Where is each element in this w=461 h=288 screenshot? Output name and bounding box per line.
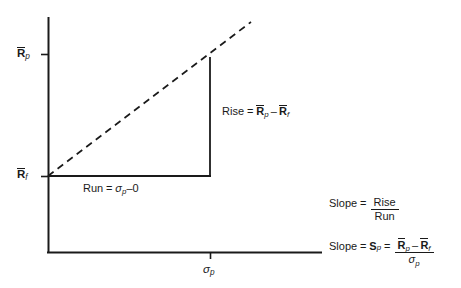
rise-annotation-prefix: Rise — [222, 106, 244, 117]
run-term1-base: σ — [115, 183, 122, 194]
x-axis-label-sigma-base: σ — [203, 264, 210, 276]
formula-slope-symbols: Slope = Sp = Rp – Rf σp — [329, 233, 435, 259]
y-axis-label-rf-base: R — [17, 169, 25, 181]
formula1-numerator: Rise — [371, 197, 399, 210]
run-annotation-prefix: Run — [83, 183, 103, 194]
rise-annotation: Rise = Rp – Rf — [222, 106, 289, 117]
run-term1-sub: p — [122, 188, 126, 196]
formula1-equals: = — [357, 198, 369, 209]
formula2-denominator: σp — [395, 252, 434, 266]
formula2-den-sub: p — [415, 260, 419, 268]
formula2-lhs: Slope — [329, 241, 357, 252]
formula-slope-words: Slope = Rise Run — [329, 190, 400, 216]
formula1-denominator: Run — [371, 209, 399, 223]
formula2-fraction: Rp – Rf σp — [395, 240, 434, 266]
run-term2: 0 — [133, 183, 139, 194]
y-axis-label-rp-sub: p — [25, 53, 30, 61]
formula2-num-term2-sub: f — [428, 245, 430, 253]
formula2-symbol-base: S — [369, 241, 376, 252]
formula2-equals-1: = — [357, 241, 369, 252]
formula2-num-term1-sub: p — [405, 245, 409, 253]
y-axis-label-rf-sub: f — [25, 174, 27, 182]
rise-term1-sub: p — [264, 111, 268, 119]
formula2-symbol-sub: p — [377, 244, 381, 252]
run-annotation: Run = σp – 0 — [83, 183, 139, 194]
formula1-fraction: Rise Run — [371, 197, 399, 223]
capital-allocation-line — [48, 22, 251, 176]
rise-term2-base: R — [279, 106, 287, 117]
x-axis-label-sigma-p: σp — [203, 264, 215, 276]
formula2-numerator: Rp – Rf — [395, 240, 434, 253]
rise-annotation-equals: = — [244, 106, 256, 117]
formula1-lhs: Slope — [329, 198, 357, 209]
y-axis-label-rf: Rf — [17, 169, 28, 181]
x-axis-label-sigma-sub: p — [210, 269, 215, 277]
sharpe-slope-diagram: Rp Rf σp Rise = Rp – Rf Run = σp – 0 — [0, 0, 461, 288]
rise-term1-base: R — [256, 106, 264, 117]
formula2-num-minus: – — [410, 240, 421, 252]
y-axis-label-rp: Rp — [17, 48, 30, 60]
run-annotation-equals: = — [103, 183, 115, 194]
formula2-num-term2-base: R — [420, 240, 428, 252]
rise-term2-sub: f — [287, 111, 289, 119]
rise-annotation-minus: – — [269, 106, 280, 117]
formula2-equals-2: = — [381, 241, 393, 252]
